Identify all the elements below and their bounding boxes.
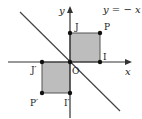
point-i — [98, 60, 102, 64]
label-o: O — [72, 66, 79, 76]
x-axis-label: x — [125, 66, 131, 77]
label-p: P — [104, 22, 110, 32]
equation-label: y = − x — [102, 4, 141, 15]
square-ojpi — [70, 33, 100, 62]
point-o — [68, 60, 72, 64]
label-i-prime: I′ — [64, 98, 70, 108]
point-j-prime — [40, 60, 44, 64]
y-axis-label: y — [58, 5, 65, 16]
label-j: J — [74, 22, 79, 32]
point-p — [98, 31, 102, 35]
reflection-diagram: y x y = − x J P I O J′ P′ I′ — [0, 0, 142, 119]
label-i: I — [103, 52, 107, 62]
square-oj-prime-p-prime-i-prime — [42, 62, 70, 93]
point-j — [68, 31, 72, 35]
y-axis-arrow-icon — [67, 6, 73, 13]
label-p-prime: P′ — [30, 98, 38, 108]
point-p-prime — [40, 91, 44, 95]
label-j-prime: J′ — [30, 65, 37, 75]
point-i-prime — [68, 91, 72, 95]
x-axis-arrow-icon — [125, 59, 132, 65]
